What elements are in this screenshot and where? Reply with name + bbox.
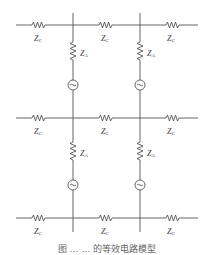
za-label: ZA [80, 50, 88, 58]
right-vertical-branch [137, 13, 143, 232]
zc-label: ZC [34, 35, 42, 43]
row-1-wire [16, 22, 198, 28]
source-icon [135, 180, 145, 190]
zc-label: ZC [167, 35, 175, 43]
zc-label: ZC [101, 128, 109, 136]
zc-label: ZC [34, 128, 42, 136]
zc-label: ZC [167, 228, 175, 236]
zc-label: ZC [34, 228, 42, 236]
row-3-wire [16, 215, 198, 221]
source-icon [68, 180, 78, 190]
za-label: ZA [147, 50, 155, 58]
zc-label: ZC [101, 228, 109, 236]
zc-label: ZC [101, 35, 109, 43]
source-icon [68, 80, 78, 90]
zc-label: ZC [167, 128, 175, 136]
row-2-wire [16, 115, 198, 121]
left-vertical-branch [70, 13, 76, 232]
za-label: ZA [147, 150, 155, 158]
za-label: ZA [80, 150, 88, 158]
source-icon [135, 80, 145, 90]
figure-caption: 图 … … 的等效电路模型 [0, 242, 214, 255]
